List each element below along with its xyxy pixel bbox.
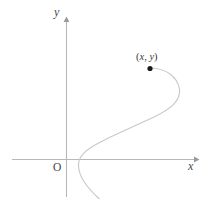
plotted-curve	[78, 68, 179, 199]
y-axis	[64, 17, 70, 198]
y-axis-label: y	[54, 6, 59, 18]
x-axis	[12, 157, 200, 163]
point-label-close-paren: )	[154, 51, 158, 62]
point-coordinate-label: (x, y)	[136, 52, 158, 63]
coordinate-figure: y x O (x, y)	[0, 0, 207, 218]
y-axis-arrowhead	[64, 17, 70, 23]
point-label-comma: ,	[144, 51, 147, 62]
x-axis-arrowhead	[194, 157, 200, 163]
figure-canvas	[0, 0, 207, 218]
annotated-point-marker	[147, 66, 152, 71]
origin-label: O	[53, 162, 61, 174]
x-axis-label: x	[188, 160, 193, 172]
